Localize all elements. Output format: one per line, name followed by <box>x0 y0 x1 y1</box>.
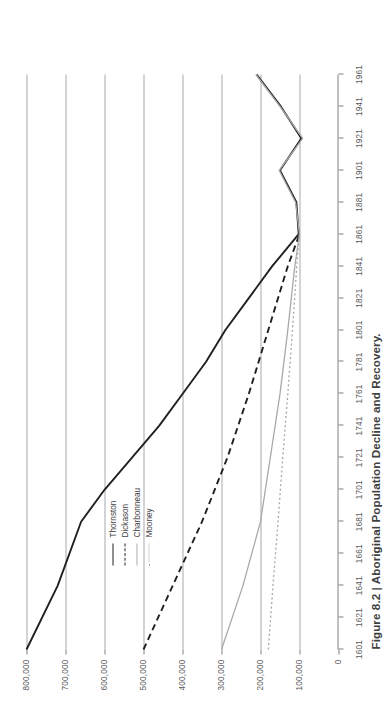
legend-item-mooney: Mooney <box>144 487 153 565</box>
x-axis-tick <box>338 361 343 362</box>
x-axis-tick <box>338 105 343 106</box>
legend-label: Thornston <box>108 500 117 537</box>
x-axis-tick <box>338 392 343 393</box>
x-axis-label: 1601 <box>354 639 363 658</box>
y-axis-label: 0 <box>334 659 343 664</box>
x-axis-label: 1621 <box>354 608 363 627</box>
legend-label: Charbonneau <box>132 487 141 537</box>
y-axis-tick <box>26 649 27 654</box>
x-axis-label: 1661 <box>354 544 363 563</box>
x-axis-label: 1901 <box>354 160 363 179</box>
y-axis-label: 300,000 <box>217 659 226 690</box>
figure-caption: Figure 8.2 | Aboriginal Population Decli… <box>368 333 381 649</box>
y-axis-label: 200,000 <box>256 659 265 690</box>
legend-item-charbonneau: Charbonneau <box>132 487 141 565</box>
x-axis-tick <box>338 297 343 298</box>
x-axis-tick <box>338 552 343 553</box>
legend-swatch-icon <box>124 543 125 565</box>
x-axis-tick <box>338 73 343 74</box>
series-line-thornston <box>26 74 301 649</box>
x-axis-tick <box>338 520 343 521</box>
x-axis-label: 1861 <box>354 224 363 243</box>
y-axis-label: 800,000 <box>22 659 31 690</box>
x-axis-tick <box>338 648 343 649</box>
x-axis-tick <box>338 424 343 425</box>
plot-canvas: 0100,000200,000300,000400,000500,000600,… <box>26 74 338 649</box>
rotated-figure: 0100,000200,000300,000400,000500,000600,… <box>0 0 389 723</box>
y-axis-tick <box>65 649 66 654</box>
x-axis-label: 1681 <box>354 512 363 531</box>
legend-swatch-icon <box>112 543 113 565</box>
x-axis-label: 1841 <box>354 256 363 275</box>
y-axis-tick <box>221 649 222 654</box>
legend-swatch-icon <box>136 543 137 565</box>
x-axis-label: 1701 <box>354 480 363 499</box>
x-axis-label: 1921 <box>354 128 363 147</box>
x-axis-label: 1821 <box>354 288 363 307</box>
figure-container: 0100,000200,000300,000400,000500,000600,… <box>0 0 389 723</box>
x-axis-label: 1721 <box>354 448 363 467</box>
x-axis-tick <box>338 265 343 266</box>
x-axis-label: 1741 <box>354 416 363 435</box>
series-layer <box>26 74 338 649</box>
x-axis-tick <box>338 201 343 202</box>
series-line-charbonneau <box>221 74 302 649</box>
y-axis-label: 400,000 <box>178 659 187 690</box>
legend-label: Dickason <box>120 503 129 537</box>
legend-label: Mooney <box>144 508 153 537</box>
x-axis-tick <box>338 616 343 617</box>
x-axis-tick <box>338 456 343 457</box>
y-axis-tick <box>143 649 144 654</box>
series-line-dickason <box>143 234 299 649</box>
legend-item-dickason: Dickason <box>120 487 129 565</box>
x-axis-label: 1641 <box>354 576 363 595</box>
legend-swatch-icon <box>148 543 149 565</box>
y-axis-label: 500,000 <box>139 659 148 690</box>
y-axis-tick <box>299 649 300 654</box>
y-axis-tick <box>260 649 261 654</box>
y-axis-tick <box>338 649 339 654</box>
y-axis-tick <box>182 649 183 654</box>
x-axis-label: 1801 <box>354 320 363 339</box>
x-axis-label: 1781 <box>354 352 363 371</box>
x-axis-tick <box>338 169 343 170</box>
x-axis-tick <box>338 137 343 138</box>
x-axis-tick <box>338 233 343 234</box>
y-axis-tick <box>104 649 105 654</box>
x-axis-label: 1941 <box>354 96 363 115</box>
chart-plot-area: 0100,000200,000300,000400,000500,000600,… <box>26 74 338 649</box>
y-axis-label: 700,000 <box>61 659 70 690</box>
x-axis-tick <box>338 488 343 489</box>
x-axis-tick <box>338 329 343 330</box>
x-axis-tick <box>338 584 343 585</box>
chart-legend: ThornstonDickasonCharbonneauMooney <box>108 487 153 565</box>
y-axis-label: 600,000 <box>100 659 109 690</box>
x-axis-label: 1881 <box>354 192 363 211</box>
legend-item-thornston: Thornston <box>108 487 117 565</box>
x-axis-label: 1761 <box>354 384 363 403</box>
x-axis-label: 1961 <box>354 64 363 83</box>
y-axis-label: 100,000 <box>295 659 304 690</box>
